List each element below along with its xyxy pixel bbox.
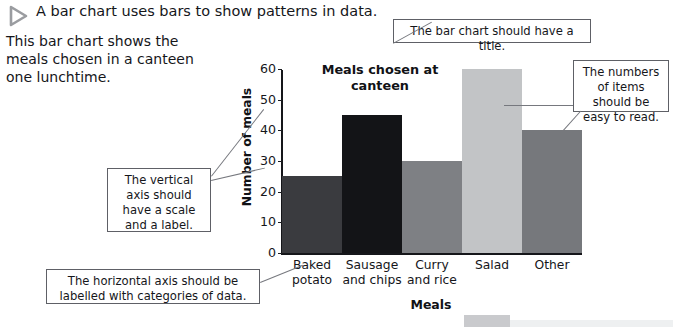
x-tick-label: Salad [462,258,522,273]
x-tick-label: Curry and rice [402,258,462,289]
x-tick-label: Sausage and chips [342,258,402,289]
intro-paragraph: This bar chart shows the meals chosen in… [6,32,221,87]
y-tick-label: 50 [250,92,276,107]
leader-line-numbers-upper [504,105,573,106]
x-tick-label: Other [522,258,582,273]
bar [402,161,462,253]
play-triangle-icon [7,5,29,27]
footer-swatch [464,315,510,327]
x-tick-label: Baked potato [282,258,342,289]
x-axis-line [281,253,582,255]
y-tick-label: 60 [250,61,276,76]
bar [282,176,342,253]
footer-rule [510,320,673,327]
bar-chart: Meals chosen at canteen Number of meals … [226,58,596,308]
plot-area [282,69,582,253]
bar [462,69,522,253]
y-tick-label: 30 [250,153,276,168]
y-tick-label: 0 [250,245,276,260]
title-callout: The bar chart should have a title. [393,19,591,43]
y-tick-mark [278,253,282,254]
bar [342,115,402,253]
header-statement: A bar chart uses bars to show patterns i… [36,3,377,19]
y-tick-label: 10 [250,214,276,229]
bar [522,130,582,253]
y-tick-label: 20 [250,184,276,199]
horizontal-axis-callout: The horizontal axis should be labelled w… [46,269,260,304]
numbers-callout: The numbers of items should be easy to r… [573,60,669,112]
vertical-axis-callout: The vertical axis should have a scale an… [107,168,211,232]
y-tick-label: 40 [250,122,276,137]
x-axis-label: Meals [281,297,581,312]
